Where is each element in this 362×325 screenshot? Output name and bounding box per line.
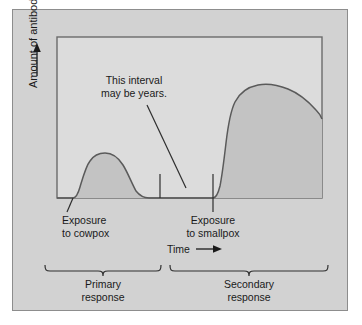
- exposure-cowpox-line2: to cowpox: [62, 227, 110, 239]
- secondary-response-line2: response: [227, 291, 270, 303]
- antibody-response-chart: This interval may be years. Amount of an…: [0, 0, 362, 325]
- interval-annotation-line2: may be years.: [101, 87, 167, 99]
- x-axis-label: Time: [167, 243, 190, 255]
- immune-response-figure: This interval may be years. Amount of an…: [0, 0, 362, 325]
- exposure-cowpox-line1: Exposure: [62, 214, 107, 226]
- secondary-response-line1: Secondary: [224, 278, 275, 290]
- primary-response-bracket: [45, 265, 161, 276]
- exposure-smallpox-line2: to smallpox: [186, 227, 240, 239]
- primary-response-line1: Primary: [85, 278, 122, 290]
- interval-annotation-line1: This interval: [106, 74, 163, 86]
- x-axis-label-group: Time: [167, 243, 222, 255]
- primary-response-line2: response: [81, 291, 124, 303]
- exposure-smallpox-line1: Exposure: [191, 214, 236, 226]
- y-axis-label: Amount of antibody: [27, 0, 39, 88]
- secondary-response-bracket: [170, 265, 328, 276]
- cowpox-pointer-line: [67, 198, 73, 212]
- y-axis-label-group: Amount of antibody: [27, 0, 41, 88]
- right-arrow-icon: [213, 245, 222, 252]
